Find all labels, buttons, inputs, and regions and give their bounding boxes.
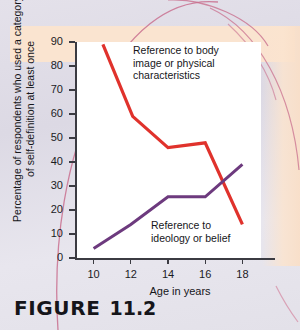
figure-caption-number: 11.2 [109, 297, 156, 319]
figure-caption: FIGURE11.2 [14, 296, 156, 320]
series-label-ideology-line-2: ideology or belief [151, 232, 261, 245]
series-label-body-line-3: characteristics [133, 69, 253, 82]
figure-caption-word: FIGURE [14, 296, 100, 320]
line-chart: 0102030405060708090 1012141618 Percentag… [0, 0, 300, 330]
series-label-ideology-line-1: Reference to [151, 219, 261, 232]
y-axis-title: Percentage of respondents who used a cat… [11, 0, 37, 225]
series-label-body-image: Reference to body image or physical char… [133, 44, 253, 82]
series-label-body-line-1: Reference to body [133, 44, 253, 57]
series-label-ideology: Reference to ideology or belief [151, 219, 261, 244]
series-label-body-line-2: image or physical [133, 57, 253, 70]
